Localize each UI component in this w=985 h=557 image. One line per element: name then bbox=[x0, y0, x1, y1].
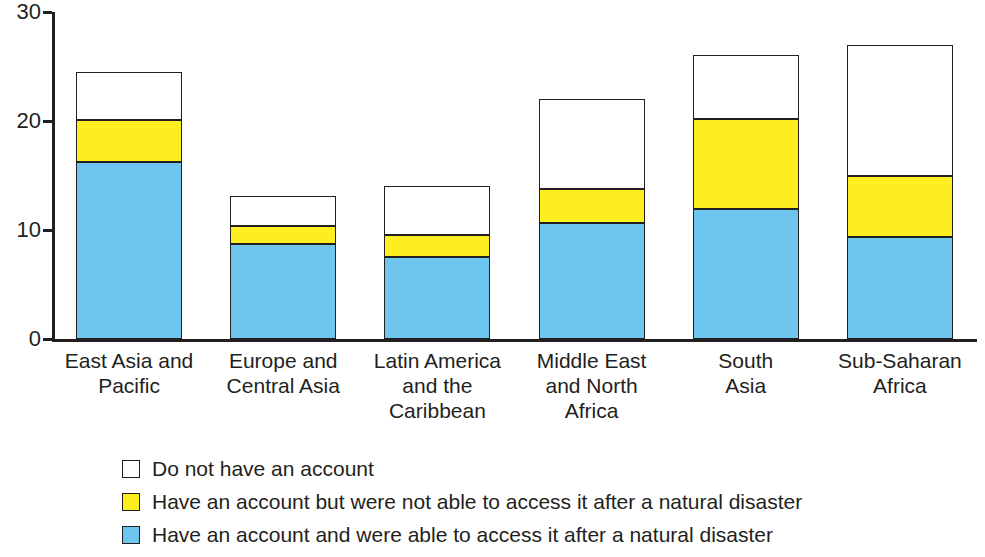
x-axis-category-label-line: Pacific bbox=[52, 373, 206, 398]
bar-segment bbox=[539, 99, 645, 188]
x-axis-category-label-line: South bbox=[669, 348, 823, 373]
legend-swatch-icon bbox=[122, 526, 140, 544]
bar-segment bbox=[847, 45, 953, 176]
x-axis-category-label: Sub-SaharanAfrica bbox=[823, 348, 977, 398]
bar-segment bbox=[76, 120, 182, 163]
bar-segment bbox=[693, 55, 799, 119]
bar-group bbox=[230, 12, 336, 339]
bar-segment bbox=[230, 244, 336, 339]
chart-legend: Do not have an accountHave an account bu… bbox=[122, 452, 962, 551]
bar-stack bbox=[539, 12, 645, 339]
legend-swatch-icon bbox=[122, 493, 140, 511]
bar-segment bbox=[847, 237, 953, 339]
bar-group bbox=[693, 12, 799, 339]
bar-stack bbox=[847, 12, 953, 339]
y-axis-tick-mark bbox=[43, 11, 52, 14]
y-axis-tick-mark bbox=[43, 338, 52, 341]
x-axis-category-label-line: Latin America bbox=[360, 348, 514, 373]
x-axis-category-label: East Asia andPacific bbox=[52, 348, 206, 398]
legend-item: Have an account and were able to access … bbox=[122, 518, 962, 551]
bar-segment bbox=[693, 119, 799, 209]
bar-segment bbox=[384, 235, 490, 257]
plot-area: 0102030 bbox=[52, 12, 977, 339]
bar-segment bbox=[76, 72, 182, 120]
bar-group bbox=[539, 12, 645, 339]
bar-group bbox=[76, 12, 182, 339]
bar-segment bbox=[847, 176, 953, 237]
bar-segment bbox=[539, 189, 645, 224]
bar-stack bbox=[693, 12, 799, 339]
x-axis-category-label-line: Sub-Saharan bbox=[823, 348, 977, 373]
x-axis-category-label-line: Central Asia bbox=[206, 373, 360, 398]
legend-item: Do not have an account bbox=[122, 452, 962, 485]
bar-segment bbox=[693, 209, 799, 339]
x-axis-category-label-line: Asia bbox=[669, 373, 823, 398]
stacked-bar-chart: 0102030 East Asia andPacificEurope andCe… bbox=[0, 0, 985, 557]
x-axis-category-label-line: and the bbox=[360, 373, 514, 398]
bar-segment bbox=[230, 226, 336, 245]
x-axis-category-label-line: and North bbox=[515, 373, 669, 398]
x-axis-category-label: Middle Eastand NorthAfrica bbox=[515, 348, 669, 423]
x-axis-category-label: Europe andCentral Asia bbox=[206, 348, 360, 398]
bar-group bbox=[384, 12, 490, 339]
bar-group bbox=[847, 12, 953, 339]
x-axis-category-label-line: East Asia and bbox=[52, 348, 206, 373]
x-axis-category-label: SouthAsia bbox=[669, 348, 823, 398]
y-axis-tick-mark bbox=[43, 229, 52, 232]
bar-stack bbox=[76, 12, 182, 339]
bar-stack bbox=[230, 12, 336, 339]
legend-swatch-icon bbox=[122, 460, 140, 478]
legend-item: Have an account but were not able to acc… bbox=[122, 485, 962, 518]
bar-segment bbox=[539, 223, 645, 339]
x-axis-category-labels: East Asia andPacificEurope andCentral As… bbox=[52, 348, 977, 440]
bar-segment bbox=[384, 186, 490, 235]
x-axis-category-label-line: Europe and bbox=[206, 348, 360, 373]
bar-segment bbox=[76, 162, 182, 339]
x-axis-category-label-line: Africa bbox=[515, 398, 669, 423]
legend-label: Have an account and were able to access … bbox=[152, 523, 773, 547]
bar-segment bbox=[384, 257, 490, 339]
x-axis-category-label: Latin Americaand theCaribbean bbox=[360, 348, 514, 423]
legend-label: Do not have an account bbox=[152, 457, 374, 481]
bar-series-container bbox=[52, 12, 977, 339]
x-axis-line bbox=[52, 339, 977, 342]
x-axis-category-label-line: Africa bbox=[823, 373, 977, 398]
x-axis-category-label-line: Caribbean bbox=[360, 398, 514, 423]
y-axis-tick-mark bbox=[43, 120, 52, 123]
bar-stack bbox=[384, 12, 490, 339]
bar-segment bbox=[230, 196, 336, 225]
legend-label: Have an account but were not able to acc… bbox=[152, 490, 802, 514]
x-axis-category-label-line: Middle East bbox=[515, 348, 669, 373]
